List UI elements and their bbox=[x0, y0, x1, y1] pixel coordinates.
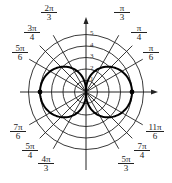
radial-tick-4: 4 bbox=[90, 41, 94, 49]
marked-point bbox=[130, 90, 135, 95]
angle-label-7pi-6: 7π6 bbox=[10, 123, 26, 140]
angle-label-pi-4: π4 bbox=[131, 24, 147, 41]
vertical-axis-arrow-icon bbox=[84, 17, 89, 24]
polar-graph: π3 π4 π6 2π3 3π4 5π6 7π6 5π4 4π3 5π3 7π4… bbox=[0, 0, 172, 183]
angle-label-4pi-3: 4π3 bbox=[38, 155, 54, 172]
angle-label-5pi-3: 5π3 bbox=[118, 155, 134, 172]
radial-tick-3: 3 bbox=[90, 52, 94, 60]
angle-label-7pi-4: 7π4 bbox=[134, 142, 150, 159]
angle-label-3pi-4: 3π4 bbox=[24, 24, 40, 41]
angle-label-5pi-4: 5π4 bbox=[22, 142, 38, 159]
angle-label-pi-6: π6 bbox=[143, 44, 159, 61]
radial-tick-5: 5 bbox=[90, 29, 94, 37]
radial-tick-1: 1 bbox=[90, 75, 94, 83]
angle-label-pi-3: π3 bbox=[114, 4, 130, 21]
angle-label-5pi-6: 5π6 bbox=[12, 44, 28, 61]
marked-point bbox=[38, 90, 43, 95]
polar-axis-arrow-icon bbox=[151, 90, 158, 95]
radial-tick-2: 2 bbox=[90, 64, 94, 72]
angle-label-11pi-6: 11π6 bbox=[146, 123, 164, 140]
angle-label-2pi-3: 2π3 bbox=[41, 4, 57, 21]
